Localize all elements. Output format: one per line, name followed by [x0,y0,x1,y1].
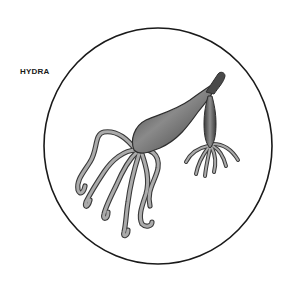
hydra-illustration [0,0,292,284]
foot-stalk [206,72,225,94]
bud-tentacles [186,144,238,176]
main-body [133,86,215,153]
bud-body [204,96,216,148]
